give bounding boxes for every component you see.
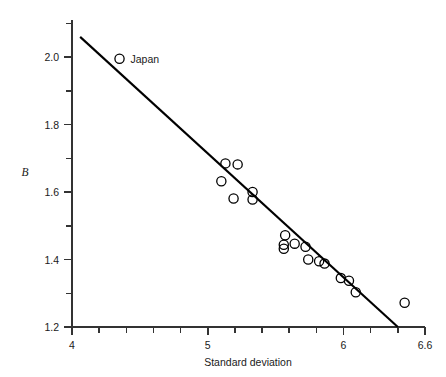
data-point bbox=[221, 159, 230, 168]
data-points-layer bbox=[217, 159, 409, 308]
data-point bbox=[400, 298, 409, 307]
annotations-layer: Japan bbox=[115, 53, 159, 65]
y-tick-label: 2.0 bbox=[44, 51, 59, 63]
y-axis-title: B bbox=[21, 166, 28, 178]
plot-canvas: 1.21.41.61.82.04566.6 Japan Standard dev… bbox=[0, 0, 446, 377]
x-tick-label: 4 bbox=[69, 339, 75, 351]
data-point bbox=[229, 194, 238, 203]
scatter-plot-figure: 1.21.41.61.82.04566.6 Japan Standard dev… bbox=[0, 0, 446, 377]
annotation-label-japan: Japan bbox=[131, 53, 160, 65]
data-point bbox=[304, 255, 313, 264]
fit-line bbox=[80, 37, 398, 327]
x-axis-title: Standard deviation bbox=[204, 356, 292, 368]
data-point bbox=[281, 231, 290, 240]
data-point bbox=[315, 257, 324, 266]
tick-marks-layer bbox=[64, 23, 425, 335]
y-tick-label: 1.8 bbox=[44, 119, 59, 131]
data-point bbox=[233, 160, 242, 169]
y-tick-label: 1.2 bbox=[44, 321, 59, 333]
x-tick-label: 6 bbox=[341, 339, 347, 351]
annotation-marker bbox=[115, 54, 124, 63]
y-tick-label: 1.4 bbox=[44, 254, 59, 266]
axis-layer bbox=[72, 20, 425, 327]
data-point bbox=[290, 239, 299, 248]
regression-line bbox=[80, 37, 398, 327]
y-tick-label: 1.6 bbox=[44, 186, 59, 198]
x-tick-label: 6.6 bbox=[418, 339, 433, 351]
data-point bbox=[217, 177, 226, 186]
x-tick-label: 5 bbox=[205, 339, 211, 351]
